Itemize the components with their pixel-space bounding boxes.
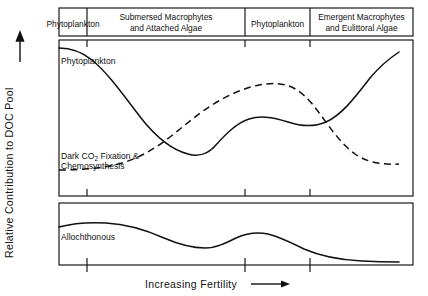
x-axis-ticks [87, 265, 310, 272]
y-axis-label: Relative Contribution to DOC Pool [3, 87, 15, 258]
figure-svg: Relative Contribution to DOC Pool Phytop… [0, 0, 428, 296]
zone-header-cell-4-line2: and Eulittoral Algae [325, 23, 398, 33]
zone-header-cell-2-line2: and Attached Algae [130, 23, 203, 33]
curve-allochthonous [59, 223, 399, 262]
label-phytoplankton: Phytoplankton [61, 56, 116, 66]
label-allochthonous: Allochthonous [61, 232, 115, 242]
y-axis-arrow-icon [16, 32, 23, 62]
x-axis-label: Increasing Fertility [145, 278, 238, 290]
zone-header-cell-2-line1: Submersed Macrophytes [119, 12, 212, 22]
zone-header-cell-3-line1: Phytoplankton [251, 19, 304, 29]
x-axis-label-group: Increasing Fertility [145, 278, 290, 290]
zone-header-cell-1-line1: Phytoplankton [46, 19, 99, 29]
x-axis-arrowhead-icon [281, 281, 290, 288]
label-dark-co2-part1: Dark CO [61, 151, 95, 161]
figure-container: Relative Contribution to DOC Pool Phytop… [0, 0, 428, 296]
label-dark-co2-part2: Fixation & [98, 151, 139, 161]
label-chemosynthesis: Chemosynthesis [61, 161, 125, 171]
zone-header-table: Phytoplankton Submersed Macrophytes and … [46, 8, 413, 36]
zone-header-cell-4-line1: Emergent Macrophytes [318, 12, 405, 22]
